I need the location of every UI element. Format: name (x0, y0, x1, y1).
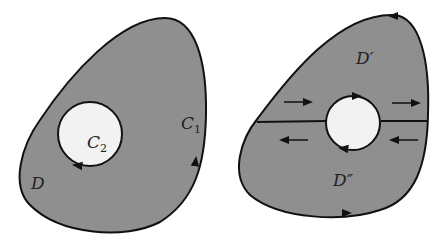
c2-direction-arrow-icon (74, 165, 82, 166)
right-figure: D′ D″ (239, 15, 428, 217)
green-theorem-diagram: C1 C2 D D′ D″ (0, 0, 447, 241)
label-d-double-prime: D″ (332, 170, 354, 190)
c1-direction-arrow-icon (195, 158, 196, 166)
label-d-prime: D′ (355, 48, 374, 68)
hole-bottom-arrow-icon (340, 148, 348, 149)
dividing-cut-left (257, 121, 326, 122)
hole-circle (326, 96, 380, 150)
label-d: D (30, 173, 45, 193)
left-figure: C1 C2 D (20, 18, 206, 232)
